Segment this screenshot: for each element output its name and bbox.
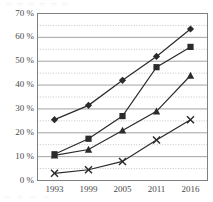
chart-container: ▭ ▭ ▭ ▭ ▭ ▭ 0 %10 %20 %30 %40 %50 %60 %7… xyxy=(0,0,213,202)
y-axis-tick-label: 20 % xyxy=(0,128,34,137)
data-point-marker-diamond xyxy=(51,116,58,123)
data-point-marker-square xyxy=(153,64,159,70)
data-point-marker-square xyxy=(85,136,91,142)
series-layer xyxy=(51,25,194,176)
plot-border xyxy=(38,14,208,181)
cropped-strip-bottom: ▭ ▭ ▭ ▭ xyxy=(4,193,204,202)
y-axis-tick-label: 0 % xyxy=(0,176,34,185)
series-line xyxy=(55,29,191,120)
y-axis-tick-label: 70 % xyxy=(0,9,34,18)
y-axis-tick-label: 40 % xyxy=(0,80,34,89)
y-axis-tick-label: 10 % xyxy=(0,152,34,161)
data-point-marker-cross xyxy=(187,116,194,123)
data-point-marker-triangle xyxy=(85,146,92,153)
data-point-marker-square xyxy=(119,113,125,119)
plot-frame xyxy=(38,14,208,181)
line-chart-plot xyxy=(0,0,213,202)
data-point-marker-square xyxy=(187,44,193,50)
data-point-marker-cross xyxy=(153,136,160,143)
y-axis-tick-label: 60 % xyxy=(0,32,34,41)
gridlines-group xyxy=(38,14,208,169)
data-point-marker-triangle xyxy=(119,127,126,134)
data-point-marker-triangle xyxy=(187,72,194,79)
y-axis-tick-label: 50 % xyxy=(0,56,34,65)
series-line xyxy=(55,47,191,154)
y-axis-tick-label: 30 % xyxy=(0,104,34,113)
